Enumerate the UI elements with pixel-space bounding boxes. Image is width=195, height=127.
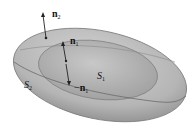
label-n2: n2 [52, 9, 61, 20]
label-n1: n1 [70, 36, 79, 47]
label-minus-n1: −n1 [74, 83, 88, 94]
label-s2: S2 [24, 80, 32, 91]
label-s1: S1 [97, 71, 105, 82]
ellipsoid-diagram [0, 0, 195, 127]
